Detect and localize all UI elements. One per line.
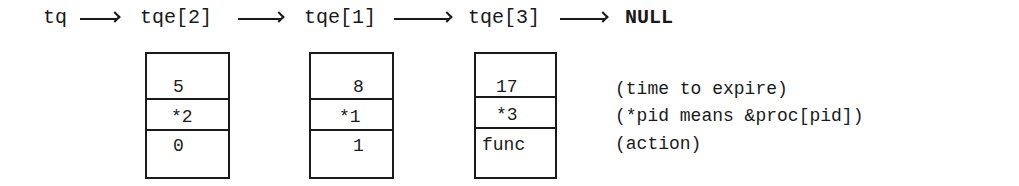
null-label: NULL [625,4,673,32]
node-box-3: 17 *3 func [474,52,557,179]
arrow-icon [80,18,118,20]
node-box-2: 8 *1 1 [309,52,394,179]
arrow-icon [394,18,450,20]
pid-cell: *3 [476,104,555,126]
divider [311,98,392,100]
divider [476,127,555,129]
divider [311,129,392,131]
time-cell: 17 [476,76,555,98]
time-cell: 5 [147,76,228,98]
pid-cell: *2 [147,106,228,128]
pid-cell: *1 [311,106,392,128]
action-cell: func [476,134,555,156]
arrow-icon [560,18,606,20]
legend-time: (time to expire) [615,78,788,100]
action-cell: 1 [311,135,392,157]
arrow-icon [238,18,282,20]
node-label-3: tqe[3] [468,4,540,32]
action-cell: 0 [147,135,228,157]
divider [147,129,228,131]
divider [147,98,228,100]
time-cell: 8 [311,76,392,98]
list-head-label: tq [43,4,67,32]
legend-action: (action) [615,133,701,155]
node-box-1: 5 *2 0 [145,52,230,179]
node-label-2: tqe[1] [304,4,376,32]
legend-pid: (*pid means &proc[pid]) [615,105,863,127]
divider [476,96,555,98]
node-label-1: tqe[2] [140,4,212,32]
